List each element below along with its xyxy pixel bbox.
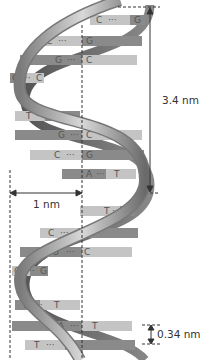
diameter-label: 1 nm [33,198,60,210]
svg-text:C: C [54,150,60,160]
svg-text:T: T [33,340,40,350]
diameter-dimension [10,190,82,196]
svg-text:···: ··· [96,169,105,179]
rise-label: 0.34 nm [157,328,201,340]
svg-text:···: ··· [66,150,75,160]
dna-helix-diagram: C···G C···G G···C G···C T···A G···C C···… [0,0,201,360]
svg-text:G: G [86,36,93,46]
svg-text:T: T [91,321,98,331]
svg-text:C: C [96,15,102,25]
svg-text:C: C [86,55,92,65]
svg-text:···: ··· [70,321,79,331]
svg-text:···: ··· [67,55,76,65]
svg-text:···: ··· [58,36,67,46]
svg-text:G: G [58,130,65,140]
svg-text:C: C [84,247,90,257]
svg-text:C: C [36,73,42,83]
svg-text:···: ··· [108,15,117,25]
svg-text:G: G [86,150,93,160]
svg-text:···: ··· [46,340,55,350]
svg-text:T: T [113,169,120,179]
pitch-label: 3.4 nm [162,94,199,106]
svg-text:···: ··· [66,247,75,257]
svg-text:···: ··· [70,130,79,140]
svg-text:G: G [55,55,62,65]
svg-text:G: G [134,15,141,25]
svg-text:G: G [40,266,47,276]
svg-text:A: A [86,169,93,179]
svg-text:T: T [53,300,60,310]
svg-text:C: C [48,228,54,238]
